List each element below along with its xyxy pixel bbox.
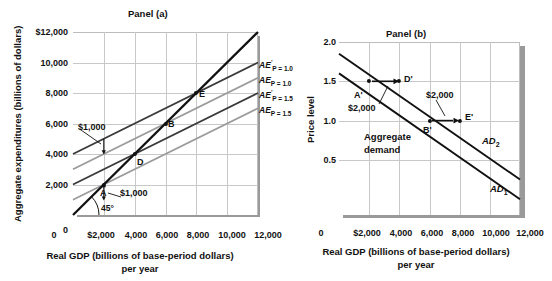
panel-a-x-axis-title-line2: per year (0, 263, 280, 275)
panel-b-ytick-15: 1.5 (310, 76, 336, 86)
panel-a-point-label-d: D (137, 157, 144, 167)
panel-a-ytick-0: 0 (16, 225, 68, 235)
curve-label-name: AD (482, 135, 496, 146)
panel-b-xtick-6000: 6,000 (421, 228, 444, 238)
panel-b-point-label-b-prime: B' (423, 125, 432, 135)
panel-a-ytick-4000: 4,000 (16, 149, 68, 159)
panel-b-xtick-12000: 12,000 (516, 228, 544, 238)
panel-b-title: Panel (b) (386, 28, 426, 39)
panel-a-ytick-12000: $12,000 (16, 27, 68, 37)
panel-a-ytick-8000: 8,000 (16, 88, 68, 98)
panel-a-annotation-shift-upper: $1,000 (78, 122, 106, 132)
panel-b-x-axis-title-line1: Real GDP (billions of base-period dollar… (280, 246, 552, 258)
panel-a-annotation-45-degree: 45° (101, 203, 114, 213)
curve-label-name: AE (259, 60, 271, 70)
panel-a-title: Panel (a) (128, 8, 168, 19)
panel-b-point-label-e-prime: E' (465, 112, 473, 122)
panel-b-ytick-05: 0.5 (310, 155, 336, 165)
shift-label-leader-upper-b (379, 86, 388, 104)
curve-label-sub: 1 (504, 189, 508, 196)
panel-b-ytick-20: 2.0 (310, 37, 336, 47)
panel-b-curve-label-ad1: AD1 (490, 183, 508, 196)
panel-a-x-axis-title-line1: Real GDP (billions of base-period dollar… (0, 250, 280, 262)
panel-a-annotation-shift-lower: $1,000 (120, 188, 148, 198)
panel-b-xtick-10000: 10,000 (482, 228, 510, 238)
curve-label-name: AE (259, 90, 271, 100)
panel-a-xtick-8000: 8,000 (187, 230, 210, 240)
panel-b-xtick-8000: 8,000 (452, 228, 475, 238)
panel-a-ytick-2000: 2,000 (16, 180, 68, 190)
panel-a-xtick-2000: $2,000 (87, 230, 115, 240)
panel-a-point-label-b: B (168, 119, 175, 129)
panel-b-point-label-a-prime: A' (354, 90, 363, 100)
curve-label-name: AE (259, 105, 271, 115)
panel-b: Panel (b) Price level 2.0 1.5 1.0 0.5 (280, 0, 552, 281)
angle-arc-45 (91, 197, 99, 215)
panel-a: Panel (a) Aggregate expenditures (billio… (0, 0, 280, 281)
curve-ae-prime-p15 (73, 93, 258, 185)
panel-b-curve-label-ad2: AD2 (482, 135, 500, 148)
panel-a-xtick-0: 0 (51, 230, 56, 240)
curve-label-name: AD (490, 183, 504, 194)
curve-ad2 (339, 54, 520, 180)
shift-label-leader-lower-b (436, 100, 445, 116)
panel-b-xtick-2000: $2,000 (353, 228, 381, 238)
panel-a-point-label-e: E (199, 89, 205, 99)
panel-b-x-axis-title-line2: per year (280, 259, 552, 271)
panel-a-xtick-10000: 10,000 (218, 230, 246, 240)
figure-container: Panel (a) Aggregate expenditures (billio… (0, 0, 552, 281)
panel-b-aggregate-demand-line1: Aggregate (364, 131, 411, 143)
panel-b-point-label-d-prime: D' (404, 74, 413, 84)
panel-a-xtick-6000: 6,000 (156, 230, 179, 240)
panel-b-annotation-shift-upper: $2,000 (348, 103, 376, 113)
panel-a-point-label-a: A (100, 188, 107, 198)
panel-b-ytick-10: 1.0 (310, 116, 336, 126)
curve-label-name: AE (259, 75, 271, 85)
panel-b-annotation-shift-lower: $2,000 (426, 90, 454, 100)
panel-a-ytick-6000: 6,000 (16, 119, 68, 129)
panel-a-xtick-4000: 4,000 (125, 230, 148, 240)
panel-b-aggregate-demand-line2: demand (364, 144, 400, 156)
shift-label-leader-upper (81, 130, 101, 144)
curve-label-sub: 2 (496, 141, 500, 148)
panel-b-xtick-4000: 4,000 (390, 228, 413, 238)
panel-b-xtick-0: 0 (318, 228, 323, 238)
panel-a-xtick-12000: 12,000 (254, 230, 282, 240)
curve-ae-prime-p10 (73, 63, 258, 155)
panel-a-ytick-10000: 10,000 (16, 58, 68, 68)
